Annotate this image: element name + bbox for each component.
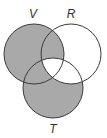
set-v-label: V	[29, 7, 38, 21]
set-r-label: R	[67, 7, 76, 21]
set-t-label: T	[49, 122, 58, 136]
shaded-region	[4, 24, 83, 118]
venn-diagram: V R T	[0, 0, 107, 138]
